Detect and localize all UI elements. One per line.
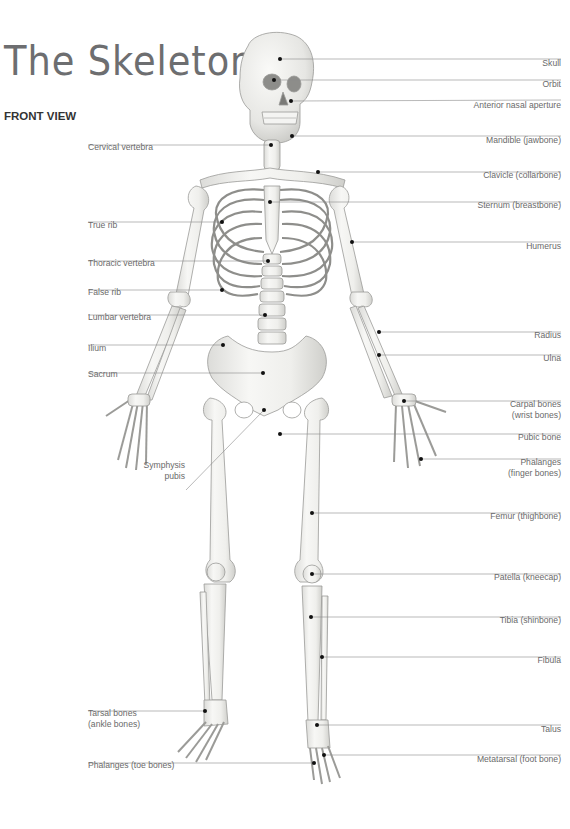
label-text-line2: (finger bones)	[508, 468, 561, 479]
label-metatarsal: Metatarsal (foot bone)	[477, 754, 561, 765]
label-text: True rib	[88, 220, 117, 231]
mandible-marker-dot	[290, 134, 294, 138]
spine	[258, 254, 286, 344]
label-thoracic-vertebra: Thoracic vertebra	[88, 258, 155, 269]
ulna-marker-dot	[377, 353, 381, 357]
label-text: Fibula	[538, 655, 561, 666]
label-text: Humerus	[526, 241, 561, 252]
label-text: Symphysis	[130, 460, 185, 471]
label-text: Orbit	[542, 79, 561, 90]
label-text: Femur (thighbone)	[490, 511, 561, 522]
pubic-bone-marker-dot	[278, 432, 282, 436]
label-carpal-bones: Carpal bones(wrist bones)	[510, 399, 561, 421]
label-talus: Talus	[541, 724, 561, 735]
label-text: Talus	[541, 724, 561, 735]
label-anterior-nasal-aperture: Anterior nasal aperture	[474, 100, 561, 111]
patella-marker-dot	[310, 572, 314, 576]
label-text: Sternum (breastbone)	[477, 200, 561, 211]
symphysis-pubis-marker-dot	[262, 408, 266, 412]
label-text: Phalanges	[508, 457, 561, 468]
thoracic-vertebra-marker-dot	[266, 259, 270, 263]
label-text: Cervical vertebra	[88, 142, 153, 153]
carpal-bones-marker-dot	[402, 399, 406, 403]
label-phalanges-toe: Phalanges (toe bones)	[88, 760, 174, 771]
label-lumbar-vertebra: Lumbar vertebra	[88, 312, 151, 323]
humerus-marker-dot	[350, 240, 354, 244]
label-cervical-vertebra: Cervical vertebra	[88, 142, 153, 153]
label-text: Carpal bones	[510, 399, 561, 410]
label-text: False rib	[88, 287, 121, 298]
label-text: Pubic bone	[518, 432, 561, 443]
tibia-marker-dot	[309, 615, 313, 619]
label-radius: Radius	[534, 330, 561, 341]
skull-marker-dot	[278, 57, 282, 61]
label-false-rib: False rib	[88, 287, 121, 298]
label-text: Tibia (shinbone)	[500, 615, 561, 626]
label-true-rib: True rib	[88, 220, 117, 231]
cervical-vertebra-marker-dot	[269, 143, 273, 147]
false-rib-marker-dot	[220, 288, 224, 292]
label-text: Phalanges (toe bones)	[88, 760, 174, 771]
label-tarsal-bones: Tarsal bones(ankle bones)	[88, 708, 140, 730]
label-text: Ilium	[88, 343, 106, 354]
phalanges-toe-marker-dot	[312, 761, 316, 765]
phalanges-finger-marker-dot	[419, 457, 423, 461]
label-skull: Skull	[542, 58, 561, 69]
lumbar-vertebra-marker-dot	[263, 313, 267, 317]
label-sacrum: Sacrum	[88, 369, 118, 380]
clavicle-marker-dot	[316, 170, 320, 174]
label-text-line2: pubis	[130, 471, 185, 482]
talus-marker-dot	[315, 723, 319, 727]
label-fibula: Fibula	[538, 655, 561, 666]
label-orbit: Orbit	[542, 79, 561, 90]
left-patella	[207, 563, 225, 581]
label-text: Patella (kneecap)	[494, 572, 561, 583]
label-femur: Femur (thighbone)	[490, 511, 561, 522]
right-foot	[310, 746, 340, 784]
label-ulna: Ulna	[543, 353, 561, 364]
label-text: Anterior nasal aperture	[474, 100, 561, 111]
right-femur	[295, 398, 329, 582]
label-text: Clavicle (collarbone)	[483, 170, 561, 181]
sternum-shape	[264, 186, 280, 254]
label-clavicle: Clavicle (collarbone)	[483, 170, 561, 181]
label-pubic-bone: Pubic bone	[518, 432, 561, 443]
label-patella: Patella (kneecap)	[494, 572, 561, 583]
true-rib-marker-dot	[220, 220, 224, 224]
label-text: Tarsal bones	[88, 708, 140, 719]
skull-shape	[239, 32, 313, 143]
left-femur	[203, 398, 235, 582]
label-text: Metatarsal (foot bone)	[477, 754, 561, 765]
sacrum-marker-dot	[261, 371, 265, 375]
label-text: Ulna	[543, 353, 561, 364]
label-tibia: Tibia (shinbone)	[500, 615, 561, 626]
label-text: Radius	[534, 330, 561, 341]
skeleton-illustration	[0, 0, 570, 829]
label-text: Skull	[542, 58, 561, 69]
label-text: Sacrum	[88, 369, 118, 380]
label-text: Lumbar vertebra	[88, 312, 151, 323]
label-symphysis-pubis: Symphysispubis	[130, 460, 185, 482]
femur-marker-dot	[310, 511, 314, 515]
orbit-marker-dot	[272, 78, 276, 82]
label-mandible: Mandible (jawbone)	[486, 135, 561, 146]
tarsal-bones-marker-dot	[203, 709, 207, 713]
left-foot	[178, 722, 224, 762]
right-tibia	[302, 586, 322, 722]
label-text-line2: (wrist bones)	[510, 410, 561, 421]
label-text-line2: (ankle bones)	[88, 719, 140, 730]
label-sternum: Sternum (breastbone)	[477, 200, 561, 211]
label-ilium: Ilium	[88, 343, 106, 354]
anterior-nasal-aperture-marker-dot	[289, 99, 293, 103]
label-text: Mandible (jawbone)	[486, 135, 561, 146]
sternum-marker-dot	[268, 200, 272, 204]
label-humerus: Humerus	[526, 241, 561, 252]
radius-marker-dot	[377, 330, 381, 334]
ilium-marker-dot	[221, 343, 225, 347]
metatarsal-marker-dot	[322, 753, 326, 757]
label-phalanges-finger: Phalanges(finger bones)	[508, 457, 561, 479]
label-text: Thoracic vertebra	[88, 258, 155, 269]
fibula-marker-dot	[320, 655, 324, 659]
